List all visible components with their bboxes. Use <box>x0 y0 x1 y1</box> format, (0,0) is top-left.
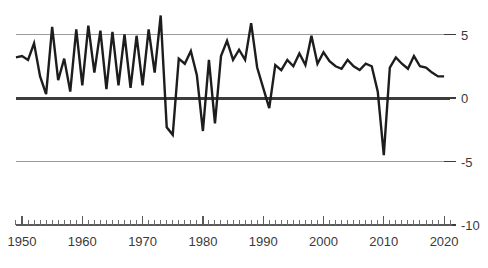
x-axis-labels-group: 19501960197019801990200020102020 <box>8 234 459 249</box>
x-tick-label: 1990 <box>249 234 278 249</box>
series-line <box>16 15 444 155</box>
y-axis-labels-group: 50-5-10 <box>461 28 480 234</box>
y-tick-label: 0 <box>461 91 468 106</box>
y-axis-ticks-group <box>444 35 456 226</box>
x-axis-ticks-group <box>16 216 450 225</box>
y-tick-label: -5 <box>461 155 473 170</box>
y-tick-label: -10 <box>461 218 480 233</box>
line-chart: 50-5-10 19501960197019801990200020102020 <box>0 0 488 268</box>
x-tick-label: 2010 <box>369 234 398 249</box>
data-series-group <box>16 15 444 155</box>
x-tick-label: 1960 <box>68 234 97 249</box>
x-tick-label: 1970 <box>128 234 157 249</box>
chart-container: 50-5-10 19501960197019801990200020102020 <box>0 0 488 268</box>
y-tick-label: 5 <box>461 28 468 43</box>
x-tick-label: 2020 <box>430 234 459 249</box>
x-tick-label: 1950 <box>8 234 37 249</box>
x-tick-label: 1980 <box>188 234 217 249</box>
x-tick-label: 2000 <box>309 234 338 249</box>
